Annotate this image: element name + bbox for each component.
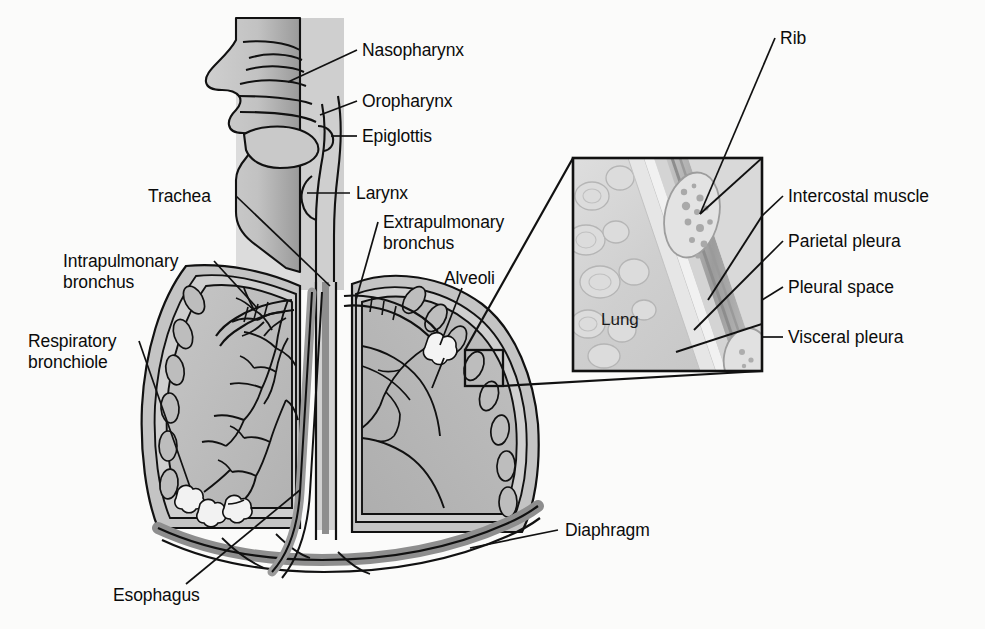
label-esophagus: Esophagus [113, 585, 200, 605]
leader-parietal-pleura [762, 241, 783, 262]
right-lung-group [344, 276, 539, 532]
label-respiratory-bronchiole-line2: bronchiole [28, 352, 108, 372]
label-respiratory-bronchiole-line1: Respiratory [28, 331, 116, 351]
leader-pleural-space [762, 287, 783, 300]
label-rib: Rib [780, 28, 806, 48]
diagram-artwork [0, 0, 985, 629]
right-alveolar-cluster [423, 333, 456, 365]
label-visceral-pleura: Visceral pleura [788, 327, 903, 347]
label-intrapulmonary-bronchus-line1: Intrapulmonary [63, 251, 178, 271]
left-lung-group [142, 265, 300, 528]
upper-airway-group [206, 18, 344, 290]
inset-connector-top [465, 158, 573, 350]
label-epiglottis: Epiglottis [362, 126, 432, 146]
label-parietal-pleura: Parietal pleura [788, 231, 901, 251]
label-lung: Lung [601, 310, 639, 330]
leader-intercostal-muscle [762, 196, 783, 216]
label-intercostal-muscle: Intercostal muscle [788, 186, 929, 206]
label-extrapulmonary-bronchus-line1: Extrapulmonary [383, 212, 504, 232]
inset-connector-bottom [503, 371, 762, 386]
respiratory-system-diagram: Nasopharynx Oropharynx Epiglottis Larynx… [0, 0, 985, 629]
trachea-group [316, 282, 336, 540]
label-diaphragm: Diaphragm [565, 520, 650, 540]
label-larynx: Larynx [356, 183, 408, 203]
label-intrapulmonary-bronchus-line2: bronchus [63, 272, 134, 292]
label-extrapulmonary-bronchus-line2: bronchus [383, 233, 454, 253]
label-pleural-space: Pleural space [788, 277, 894, 297]
label-oropharynx: Oropharynx [362, 91, 452, 111]
label-alveoli: Alveoli [444, 268, 495, 288]
label-trachea: Trachea [148, 186, 211, 206]
label-nasopharynx: Nasopharynx [362, 40, 464, 60]
